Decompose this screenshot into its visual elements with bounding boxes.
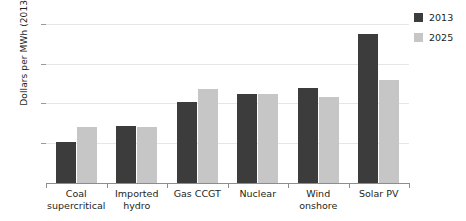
legend-label-2025: 2025 [429, 32, 453, 43]
bar-group [107, 14, 168, 183]
plot-area: 4080120160 [46, 14, 409, 183]
x-axis-tick [349, 183, 350, 188]
x-axis-tick [46, 183, 47, 188]
y-axis-title: Dollars per MWh (2013) [19, 0, 29, 121]
bar-group [46, 14, 107, 183]
x-axis-label-line: supercritical [46, 200, 107, 212]
x-axis-label: Coalsupercritical [46, 188, 107, 211]
x-axis-label-line: Nuclear [228, 188, 289, 200]
x-axis-label: Windonshore [288, 188, 349, 211]
bar-group [349, 14, 410, 183]
bar-2013 [237, 94, 257, 183]
x-axis-label-line: Wind [288, 188, 349, 200]
legend-item: 2025 [414, 32, 453, 43]
bar-2025 [319, 97, 339, 183]
bar-group [288, 14, 349, 183]
x-axis-label: Solar PV [349, 188, 410, 211]
bar-2025 [379, 80, 399, 183]
x-axis-tick [409, 183, 410, 188]
x-axis-label-line: Solar PV [349, 188, 410, 200]
legend-swatch-2013 [414, 13, 423, 22]
x-axis-label-line: onshore [288, 200, 349, 212]
x-axis-labels: CoalsupercriticalImportedhydroGas CCGTNu… [46, 188, 409, 211]
bar-groups [46, 14, 409, 183]
bar-2025 [137, 127, 157, 183]
bar-2025 [77, 127, 97, 183]
bar-2025 [198, 89, 218, 183]
bar-2013 [298, 88, 318, 183]
bar-2013 [56, 142, 76, 183]
bar-group [228, 14, 289, 183]
legend-label-2013: 2013 [429, 12, 453, 23]
x-axis-label: Nuclear [228, 188, 289, 211]
x-axis-tick [228, 183, 229, 188]
x-axis-label-line: Coal [46, 188, 107, 200]
x-axis-tick [107, 183, 108, 188]
bar-group [167, 14, 228, 183]
bar-2025 [258, 94, 278, 183]
x-axis-label-line: hydro [107, 200, 168, 212]
x-axis-label: Importedhydro [107, 188, 168, 211]
x-axis-label-line: Gas CCGT [167, 188, 228, 200]
bar-chart: Dollars per MWh (2013) 4080120160 Coalsu… [0, 0, 466, 221]
legend: 20132025 [414, 12, 453, 52]
x-axis-label: Gas CCGT [167, 188, 228, 211]
x-axis-tick [167, 183, 168, 188]
legend-item: 2013 [414, 12, 453, 23]
legend-swatch-2025 [414, 33, 423, 42]
bar-2013 [116, 126, 136, 183]
bar-2013 [177, 102, 197, 183]
x-axis-label-line: Imported [107, 188, 168, 200]
bar-2013 [358, 34, 378, 183]
x-axis-tick [288, 183, 289, 188]
